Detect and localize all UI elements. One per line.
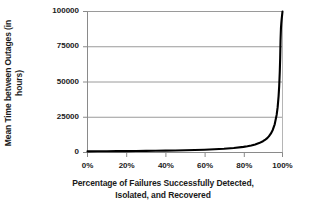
x-tick-label-100: 100% — [263, 161, 303, 170]
y-tick-marks — [83, 12, 87, 153]
data-series-line — [88, 12, 283, 152]
y-tick-label-50000: 50000 — [33, 77, 79, 86]
x-axis-title-line-2: Isolated, and Recovered — [115, 190, 210, 200]
y-axis-title-line-2: hours) — [14, 70, 24, 96]
y-tick-label-25000: 25000 — [33, 112, 79, 121]
y-tick-label-100000: 100000 — [33, 6, 79, 15]
y-tick-label-75000: 75000 — [33, 41, 79, 50]
y-tick-label-0: 0 — [33, 147, 79, 156]
y-axis-title: Mean Time between Outages (in hours) — [3, 7, 25, 159]
x-axis-title: Percentage of Failures Successfully Dete… — [30, 178, 296, 201]
x-tick-label-0: 0% — [68, 161, 108, 170]
x-tick-label-80: 80% — [224, 161, 264, 170]
chart-figure: 100000 75000 50000 25000 0 0% 20% 40% 60… — [0, 0, 312, 214]
x-tick-marks — [88, 153, 283, 158]
x-tick-label-20: 20% — [107, 161, 147, 170]
gridlines — [87, 12, 283, 118]
x-tick-label-40: 40% — [146, 161, 186, 170]
x-axis-title-line-1: Percentage of Failures Successfully Dete… — [72, 178, 254, 188]
x-tick-label-60: 60% — [185, 161, 225, 170]
y-axis-title-line-1: Mean Time between Outages (in — [3, 20, 13, 146]
